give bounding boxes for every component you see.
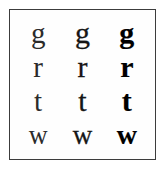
letter-row-r: r r r <box>10 50 155 84</box>
glyph-r-light: r <box>17 50 60 84</box>
letter-row-g: g g g <box>10 16 155 50</box>
glyph-g-light: g <box>17 16 60 50</box>
letter-row-t: t t t <box>10 84 155 118</box>
glyph-w-bold: w <box>105 118 149 152</box>
glyph-g-bold: g <box>105 16 149 50</box>
glyph-t-regular: t <box>60 84 104 118</box>
glyph-r-bold: r <box>105 50 149 84</box>
glyph-g-regular: g <box>60 16 104 50</box>
glyph-w-light: w <box>17 118 60 152</box>
glyph-w-regular: w <box>60 118 104 152</box>
glyph-t-bold: t <box>105 84 149 118</box>
glyph-t-light: t <box>17 84 60 118</box>
specimen-root: g g g r r r t t t w w w <box>0 0 168 171</box>
glyph-r-regular: r <box>60 50 104 84</box>
letter-grid-frame: g g g r r r t t t w w w <box>9 9 156 160</box>
letter-row-w: w w w <box>10 118 155 152</box>
